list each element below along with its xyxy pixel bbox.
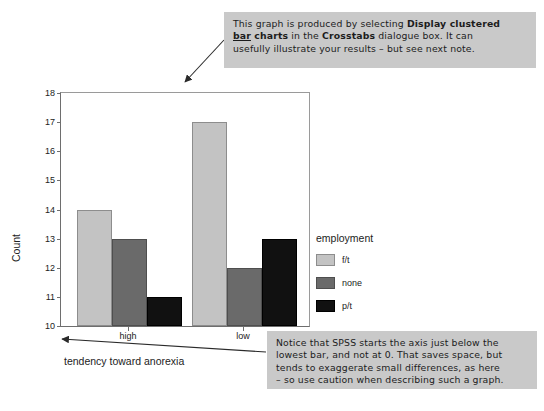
y-tick-label: 11 — [46, 292, 61, 302]
y-tick-label: 10 — [45, 321, 61, 331]
legend-title: employment — [316, 232, 406, 244]
note-bottom-line1: Notice that SPSS starts the axis just be… — [276, 337, 499, 348]
note-top-line1-plain: This graph is produced by selecting — [233, 18, 407, 29]
note-top-line2-bold-rest: charts — [251, 30, 288, 41]
note-top-line2-bold-underline: bar — [233, 30, 251, 41]
y-tick-label: 14 — [45, 205, 61, 215]
x-category-label-low: low — [236, 331, 250, 341]
legend-label-pt: p/t — [342, 301, 352, 311]
y-tick-label: 12 — [45, 263, 61, 273]
bar-high-ft — [77, 210, 112, 327]
x-axis-title: tendency toward anorexia — [64, 355, 184, 367]
axis-origin-caution-note: Notice that SPSS starts the axis just be… — [267, 331, 537, 389]
note-bottom-line2: lowest bar, and not at 0. That saves spa… — [276, 349, 502, 360]
bar-low-ft — [192, 122, 227, 326]
clustered-bar-note: This graph is produced by selecting Disp… — [224, 12, 536, 68]
legend-label-ft: f/t — [342, 255, 350, 265]
y-tick-label: 17 — [45, 117, 61, 127]
y-tick-label: 16 — [45, 146, 61, 156]
y-tick-label: 18 — [45, 88, 61, 98]
y-tick-label: 13 — [45, 234, 61, 244]
bar-low-none — [227, 268, 262, 326]
bar-high-none — [112, 239, 147, 326]
legend-item-none: none — [316, 276, 406, 289]
note-bottom-line4: – so use caution when describing such a … — [276, 374, 504, 385]
note-top-line2-end: dialogue box. It can — [375, 30, 473, 41]
legend-item-ft: f/t — [316, 253, 406, 266]
legend-swatch-pt — [316, 300, 335, 312]
note-top-line2-mid: in the — [288, 30, 322, 41]
legend-swatch-none — [316, 277, 335, 289]
y-axis-title: Count — [10, 234, 22, 262]
x-category-label-high: high — [119, 331, 136, 341]
note-bottom-line3: tends to exaggerate small differences, a… — [276, 362, 500, 373]
plot-area: 18 17 16 15 14 13 12 11 10 — [60, 92, 310, 327]
note-top-line2-bold2: Crosstabs — [322, 30, 375, 41]
bar-high-pt — [147, 297, 182, 326]
note-top-line1-bold: Display clustered — [407, 18, 500, 29]
y-tick-label: 15 — [45, 175, 61, 185]
legend-label-none: none — [342, 278, 362, 288]
legend: employment f/t none p/t — [316, 232, 406, 322]
note-top-line3: usefully illustrate your results – but s… — [233, 43, 475, 54]
legend-item-pt: p/t — [316, 299, 406, 312]
bar-low-pt — [262, 239, 297, 326]
legend-swatch-ft — [316, 254, 335, 266]
